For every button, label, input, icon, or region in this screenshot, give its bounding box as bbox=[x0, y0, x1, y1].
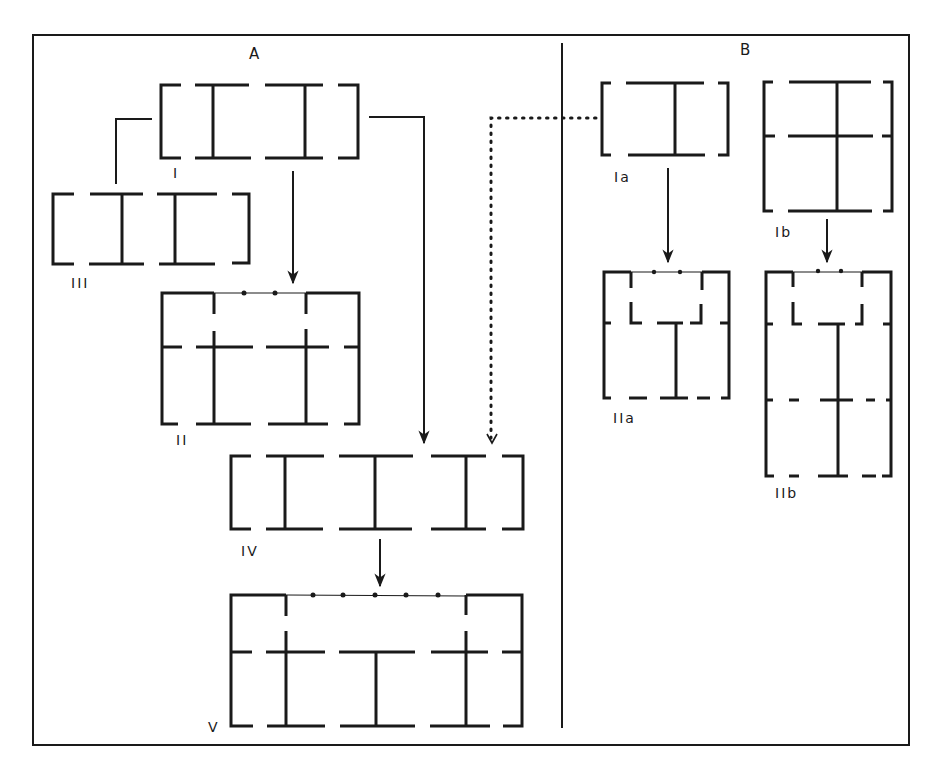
plan-label-iv: IV bbox=[241, 544, 259, 558]
arrow-i-to-iv bbox=[369, 117, 424, 443]
connector-i-to-iii bbox=[116, 119, 152, 184]
plan-ib bbox=[764, 82, 892, 211]
plan-iv bbox=[231, 456, 523, 529]
plan-label-ii: II bbox=[176, 433, 188, 447]
panel-label-a: A bbox=[249, 47, 259, 62]
plan-v bbox=[231, 593, 522, 727]
outer-frame bbox=[33, 35, 909, 745]
diagram-canvas bbox=[0, 0, 936, 770]
plan-label-iii: III bbox=[71, 276, 89, 290]
plan-i bbox=[161, 85, 358, 158]
plan-iii bbox=[53, 194, 249, 264]
plan-label-ia: Ia bbox=[614, 170, 631, 184]
plan-iia bbox=[604, 270, 729, 398]
plan-label-v: V bbox=[208, 720, 220, 734]
plan-label-iib: IIb bbox=[775, 486, 798, 500]
dotted-arrow-ia-to-iv bbox=[491, 118, 596, 438]
plan-label-iia: IIa bbox=[613, 411, 636, 425]
plan-label-ib: Ib bbox=[775, 225, 792, 239]
plan-label-i: I bbox=[173, 166, 179, 180]
plan-iib bbox=[766, 269, 891, 476]
plan-ii bbox=[162, 291, 359, 425]
panel-label-b: B bbox=[740, 43, 750, 58]
plan-ia bbox=[602, 83, 728, 155]
